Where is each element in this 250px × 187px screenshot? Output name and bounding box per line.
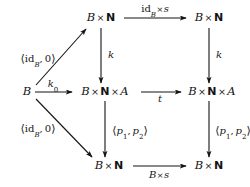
edge-label-k-right: k xyxy=(216,50,222,60)
commutative-diagram: B×N B×N B B×N×A B×N×A B×N B×N idB×s k0 t… xyxy=(0,0,250,187)
node-bottom-right-text: B×N xyxy=(195,158,224,172)
node-mid-left-text: B×N×A xyxy=(81,84,129,98)
node-mid-left: B×N×A xyxy=(81,86,129,98)
edge-label-id-b-times-s: idB×s xyxy=(141,4,169,14)
edge-label-projection-right: ⟨p1, p2⟩ xyxy=(215,125,250,136)
edge-label-projection-left: ⟨p1, p2⟩ xyxy=(112,125,148,136)
node-top-right: B×N xyxy=(195,12,224,24)
node-bottom-left: B×N xyxy=(95,160,124,172)
node-mid-far-left: B xyxy=(23,86,32,98)
node-top-right-text: B×N xyxy=(195,10,224,24)
edge-label-k-left: k xyxy=(108,50,114,60)
node-mid-right: B×N×A xyxy=(188,86,236,98)
edge-label-id-pair-down: ⟨idB, 0⟩ xyxy=(21,123,56,134)
edge-label-b-times-s: B×s xyxy=(149,170,169,180)
node-mid-right-text: B×N×A xyxy=(188,84,236,98)
node-top-left: B×N xyxy=(87,12,116,24)
node-top-left-text: B×N xyxy=(87,10,116,24)
node-bottom-right: B×N xyxy=(195,160,224,172)
edge-label-t: t xyxy=(158,94,162,104)
edge-label-k-zero: k0 xyxy=(48,79,59,89)
node-mid-far-left-text: B xyxy=(23,84,32,98)
edge-label-id-pair-up: ⟨idB, 0⟩ xyxy=(21,53,56,64)
node-bottom-left-text: B×N xyxy=(95,158,124,172)
